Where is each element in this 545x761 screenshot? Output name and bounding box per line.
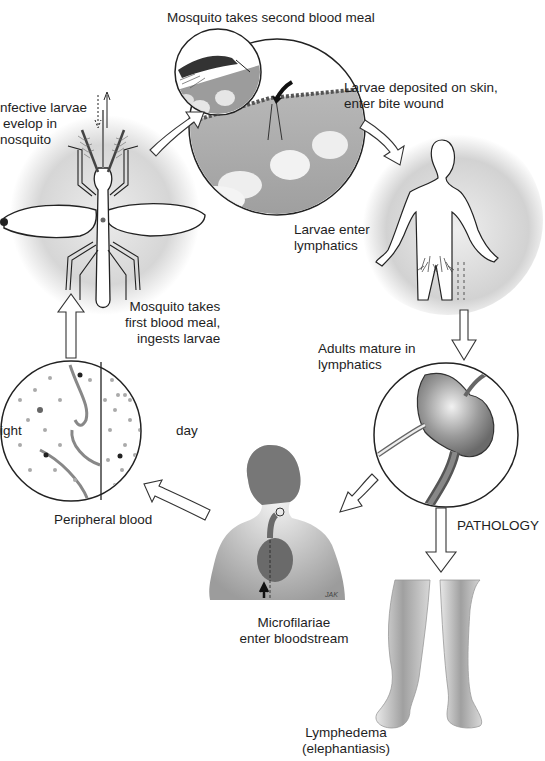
label-microfilariae: Microfilariae enter bloodstream [224,615,364,647]
label-line: ingests larvae [125,331,220,347]
label-line: enter bite wound [344,96,498,112]
label-line: Adults mature in [318,341,416,357]
label-line: enter bloodstream [224,631,364,647]
arrow-node-to-torso [340,474,378,512]
torso-illustration: JAK [209,445,345,600]
arrow-torso-to-smear [144,480,210,520]
label-larvae-enter-lymphatics: Larvae enter lymphatics [294,222,370,254]
bite-wound-illustration [170,29,370,240]
label-line: nfective larvae [0,100,87,116]
label-line: nosquito [0,132,87,148]
lymphedema-legs-illustration [376,580,482,728]
label-line: Lymphedema [296,725,396,741]
arrow-pathology [426,508,456,572]
label-line: Microfilariae [224,615,364,631]
label-infective-larvae: nfective larvae evelop in nosquito [0,100,87,148]
arrow-human-to-node [452,310,476,360]
label-pathology: PATHOLOGY [457,518,539,534]
label-day: day [176,423,198,439]
label-line: lymphatics [294,238,370,254]
label-line: Larvae deposited on skin, [344,80,498,96]
label-line: Larvae enter [294,222,370,238]
label-line: evelop in [0,116,87,132]
label-night: ight [0,423,22,439]
label-line: (elephantiasis) [296,741,396,757]
label-larvae-deposited: Larvae deposited on skin, enter bite wou… [344,80,498,112]
label-line: Mosquito takes [125,299,220,315]
label-peripheral-blood: Peripheral blood [54,512,152,528]
label-line: first blood meal, [125,315,220,331]
human-figure-illustration [353,125,543,315]
label-first-blood-meal: Mosquito takes first blood meal, ingests… [125,299,220,347]
label-adults-mature: Adults mature in lymphatics [318,341,416,373]
lymph-node-illustration [374,363,518,520]
blood-smear-illustration [1,361,142,501]
label-second-blood-meal: Mosquito takes second blood meal [167,10,375,26]
label-line: lymphatics [318,357,416,373]
artist-signature: JAK [324,591,338,598]
label-lymphedema: Lymphedema (elephantiasis) [296,725,396,757]
